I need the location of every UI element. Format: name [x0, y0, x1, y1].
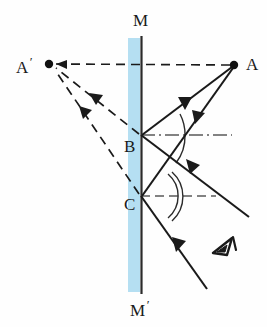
point-dot-A [230, 61, 238, 69]
angle-arc-incidence-B [180, 114, 185, 135]
label-point-C: C [124, 196, 136, 213]
label-point-A-prime: A′ [16, 55, 33, 76]
point-dot-A-prime [45, 60, 53, 68]
label-point-B-text: B [124, 137, 136, 156]
eye-icon [213, 237, 236, 255]
mirror-band [128, 38, 140, 292]
arrowhead-virtual-axis [56, 60, 67, 69]
label-point-C-text: C [124, 195, 136, 214]
label-mirror-top-text: M [133, 11, 149, 30]
virtual-axis-A-to-Aprime [56, 64, 230, 65]
label-point-A-text: A [246, 55, 259, 74]
arrowhead-ray-A-to-B [178, 97, 192, 110]
label-mirror-bottom: M′ [130, 298, 150, 319]
label-point-A-prime-mark: ′ [30, 54, 33, 69]
label-point-A-prime-text: A [16, 58, 29, 77]
ray-diagram-canvas [0, 0, 267, 327]
optics-ray-diagram: M M′ A A′ B C [0, 0, 267, 327]
label-point-B: B [124, 138, 136, 155]
label-mirror-top: M [133, 12, 149, 29]
ray-A-to-C [142, 68, 233, 196]
label-mirror-bottom-text: M [130, 301, 146, 320]
arrowhead-virtual-ray-C [79, 106, 92, 119]
label-mirror-bottom-prime: ′ [147, 297, 150, 312]
label-point-A: A [246, 56, 259, 73]
virtual-ray-C-to-Aprime [55, 70, 139, 194]
